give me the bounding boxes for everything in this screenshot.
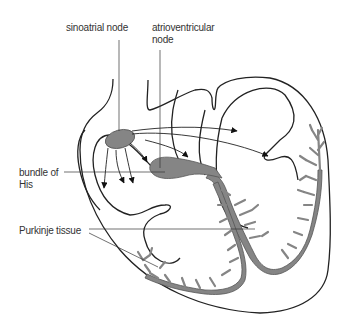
heart-outline [78,77,331,313]
heart-conduction-diagram [0,0,342,329]
sinoatrial-node [103,126,137,151]
atrioventricular-node-bundle [150,157,222,178]
